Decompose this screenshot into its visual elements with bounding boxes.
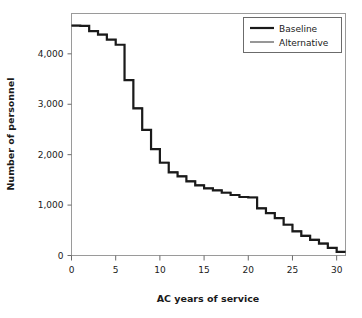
legend-label-alternative: Alternative xyxy=(279,38,329,48)
x-tick-label-0: 0 xyxy=(69,265,75,275)
x-tick-label-20: 20 xyxy=(243,265,255,275)
y-tick-label-0: 0 xyxy=(58,251,64,261)
chart-figure: 01,0002,0003,0004,000 051015202530 AC ye… xyxy=(0,0,362,318)
step-chart: 01,0002,0003,0004,000 051015202530 AC ye… xyxy=(0,0,362,318)
x-axis-title: AC years of service xyxy=(157,293,260,304)
y-tick-label-1000: 1,000 xyxy=(38,200,64,210)
y-tick-label-4000: 4,000 xyxy=(38,49,64,59)
x-tick-label-30: 30 xyxy=(331,265,343,275)
x-tick-label-25: 25 xyxy=(287,265,298,275)
x-tick-label-10: 10 xyxy=(154,265,166,275)
y-axis-title: Number of personnel xyxy=(5,77,16,190)
y-tick-label-3000: 3,000 xyxy=(38,99,64,109)
x-tick-label-5: 5 xyxy=(113,265,119,275)
chart-legend: Baseline Alternative xyxy=(244,18,342,53)
legend-label-baseline: Baseline xyxy=(279,24,318,34)
y-tick-label-2000: 2,000 xyxy=(38,150,64,160)
x-tick-label-15: 15 xyxy=(198,265,209,275)
